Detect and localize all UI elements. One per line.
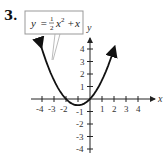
x-tick-label: 1 bbox=[100, 104, 105, 114]
y-tick-label: 3 bbox=[80, 57, 85, 67]
y-tick-label: -2 bbox=[76, 119, 84, 129]
y-tick-label: 1 bbox=[80, 82, 85, 92]
y-tick-label: -4 bbox=[76, 144, 84, 154]
equation-label-box: y = 1 2 x 2 + x bbox=[25, 11, 83, 60]
y-tick-label: -3 bbox=[76, 132, 84, 142]
x-tick-label: -2 bbox=[60, 104, 68, 114]
y-axis-label: y bbox=[86, 22, 92, 33]
eq-lhs: y bbox=[30, 17, 36, 29]
x-tick-label: 3 bbox=[124, 104, 129, 114]
x-tick-label: -3 bbox=[48, 104, 56, 114]
eq-frac-num: 1 bbox=[50, 15, 54, 23]
x-tick-label: 2 bbox=[112, 104, 117, 114]
eq-term2: x bbox=[74, 17, 80, 29]
x-axis-label: x bbox=[157, 93, 163, 104]
y-tick-label: 2 bbox=[80, 69, 85, 79]
eq-term1-exp: 2 bbox=[61, 16, 65, 24]
x-tick-label: -4 bbox=[36, 104, 44, 114]
x-tick-label: 4 bbox=[136, 104, 141, 114]
eq-frac-den: 2 bbox=[50, 24, 54, 32]
parabola-graph: y = 1 2 x 2 + x -4 -3 -2 1 2 3 4 bbox=[0, 0, 168, 163]
eq-equals: = bbox=[40, 17, 47, 29]
y-tick-label: 4 bbox=[80, 44, 85, 54]
eq-plus: + bbox=[67, 17, 74, 29]
y-tick-label: -1 bbox=[76, 107, 84, 117]
